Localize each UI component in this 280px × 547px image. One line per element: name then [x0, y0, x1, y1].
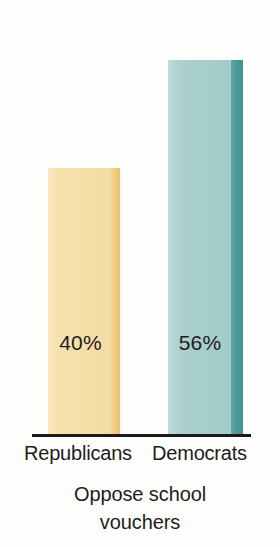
caption-line-2: vouchers — [0, 508, 280, 536]
bar-republicans-face — [48, 168, 120, 437]
plot-area: 40% 56% — [0, 0, 280, 437]
caption-line-1: Oppose school — [0, 480, 280, 508]
bar-chart: 40% 56% Republicans Democrats Oppose sch… — [0, 0, 280, 547]
category-axis-labels: Republicans Democrats — [0, 441, 280, 467]
value-label-democrats: 56% — [168, 331, 232, 355]
value-label-republicans: 40% — [48, 331, 113, 355]
category-label-democrats: Democrats — [152, 441, 247, 465]
axis-baseline — [32, 434, 251, 437]
bar-republicans-edge — [111, 168, 120, 437]
bar-republicans[interactable] — [48, 168, 120, 437]
chart-caption: Oppose school vouchers — [0, 480, 280, 536]
category-label-republicans: Republicans — [24, 441, 132, 465]
bar-democrats[interactable] — [168, 60, 243, 437]
bar-democrats-edge — [231, 60, 243, 437]
